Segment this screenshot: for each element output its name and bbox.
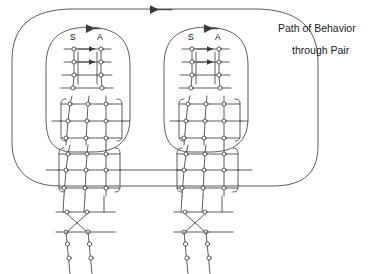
left-legs: [66, 232, 92, 274]
left-ladder-nodes: [71, 47, 104, 90]
left-inner-loop: [46, 27, 130, 152]
right-unit-label-a: A: [215, 32, 221, 42]
left-top-ladder: [61, 49, 113, 88]
right-unit-label-s: S: [188, 32, 194, 42]
right-crossover: [174, 196, 233, 232]
left-crossover: [56, 196, 115, 232]
right-inner-loop: [164, 27, 248, 152]
left-crossover-nodes: [64, 210, 90, 234]
behavior-path-diagram: [0, 0, 369, 274]
right-leg-nodes: [183, 242, 211, 260]
figure-canvas: S A S A Path of Behavior through Pair: [0, 0, 369, 274]
left-leg-nodes: [65, 242, 93, 260]
right-ladder-nodes: [189, 47, 222, 90]
caption-line-1: Path of Behavior: [278, 22, 356, 34]
right-crossover-nodes: [182, 210, 208, 234]
right-unit: [164, 27, 252, 274]
left-unit: [46, 27, 186, 274]
right-top-ladder: [179, 49, 231, 88]
right-legs: [184, 232, 210, 274]
left-unit-label-s: S: [70, 32, 76, 42]
caption-line-2: through Pair: [292, 44, 349, 56]
left-unit-label-a: A: [97, 32, 103, 42]
